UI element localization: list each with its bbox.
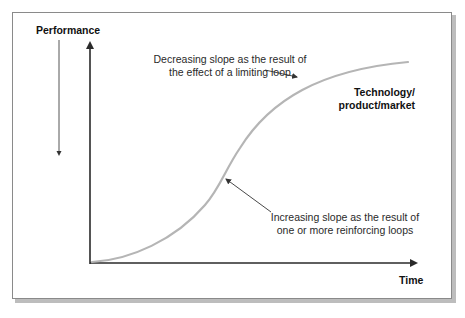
reinforcing-loop-line-2: one or more reinforcing loops bbox=[265, 224, 425, 237]
curve-label: Technology/ product/market bbox=[330, 86, 415, 112]
diagram-canvas bbox=[0, 0, 465, 318]
x-axis-label: Time bbox=[399, 274, 423, 287]
reinforcing-loop-line-1: Increasing slope as the result of bbox=[265, 211, 425, 224]
y-axis-label: Performance bbox=[36, 24, 100, 37]
limiting-loop-annotation: Decreasing slope as the result of the ef… bbox=[120, 53, 340, 79]
limiting-loop-line-2: the effect of a limiting loop bbox=[120, 66, 340, 79]
reinforcing-loop-arrow bbox=[226, 179, 271, 212]
curve-label-line-2: product/market bbox=[330, 99, 415, 112]
curve-label-line-1: Technology/ bbox=[330, 86, 415, 99]
down-arrow-icon bbox=[57, 151, 62, 156]
performance-indicator-line bbox=[57, 40, 62, 156]
reinforcing-loop-annotation: Increasing slope as the result of one or… bbox=[265, 211, 425, 237]
limiting-loop-line-1: Decreasing slope as the result of bbox=[120, 53, 340, 66]
